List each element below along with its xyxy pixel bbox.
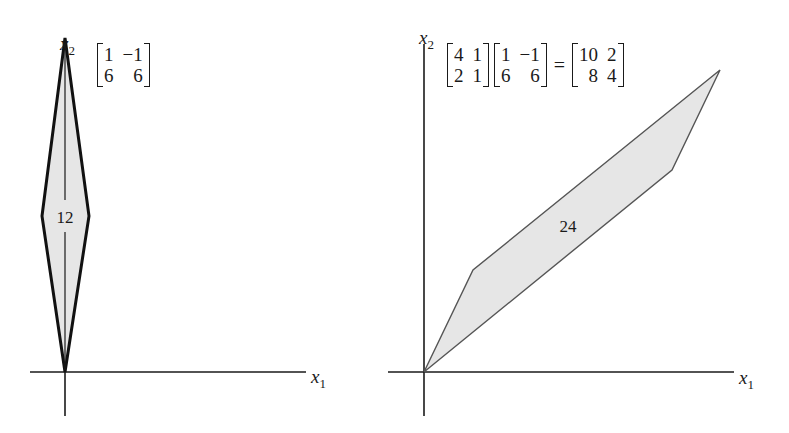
matrix-cell: 4 bbox=[454, 44, 464, 65]
matrix-cell: 1 bbox=[473, 44, 483, 65]
matrix-a: 4 1 2 1 bbox=[447, 43, 489, 87]
matrix-cell: 4 bbox=[607, 65, 617, 86]
matrix-cell: −1 bbox=[520, 44, 540, 65]
left-area-label: 12 bbox=[57, 208, 74, 227]
matrix-cell: −1 bbox=[123, 44, 143, 65]
left-matrix: 1 −1 6 6 bbox=[97, 43, 150, 87]
matrix-cell: 1 bbox=[104, 44, 114, 65]
right-x1-label: x1 bbox=[738, 367, 754, 392]
right-equation: 4 1 2 1 1 −1 6 6 = 10 2 8 4 bbox=[447, 43, 624, 87]
left-x1-label: x1 bbox=[310, 366, 326, 391]
matrix-cell: 6 bbox=[123, 65, 143, 86]
matrix-cell: 10 bbox=[579, 44, 598, 65]
right-area-label: 24 bbox=[560, 217, 578, 236]
matrix-cell: 2 bbox=[607, 44, 617, 65]
left-panel: 12 x1 x2 bbox=[30, 33, 326, 416]
matrix-cell: 8 bbox=[579, 65, 598, 86]
equals-sign: = bbox=[554, 55, 565, 76]
right-x2-label: x2 bbox=[418, 27, 434, 52]
matrix-result: 10 2 8 4 bbox=[572, 43, 624, 87]
matrix-cell: 2 bbox=[454, 65, 464, 86]
matrix-cell: 1 bbox=[473, 65, 483, 86]
matrix-cell: 1 bbox=[501, 44, 511, 65]
matrix-cell: 6 bbox=[520, 65, 540, 86]
matrix-cell: 6 bbox=[501, 65, 511, 86]
left-matrix-block: 1 −1 6 6 bbox=[97, 43, 150, 87]
matrix-b: 1 −1 6 6 bbox=[494, 43, 547, 87]
matrix-cell: 6 bbox=[104, 65, 114, 86]
